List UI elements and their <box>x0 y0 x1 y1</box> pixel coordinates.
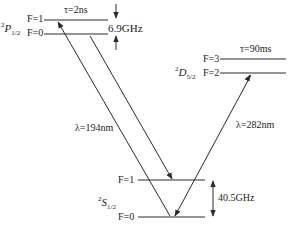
uv-absorption-arrow <box>58 22 170 216</box>
p-lifetime-label: τ=2ns <box>64 5 88 15</box>
d-f3-label: F=3 <box>203 54 219 64</box>
s-f1-label: F=1 <box>118 175 134 185</box>
p-term-label: 2P1/2 <box>1 20 20 39</box>
uv-wavelength-label: λ=194nm <box>75 123 113 133</box>
p-splitting-label: 6.9GHz <box>108 23 143 33</box>
quadrupole-wavelength-label: λ=282nm <box>236 120 274 130</box>
d-f2-label: F=2 <box>203 68 219 78</box>
d-lifetime-label: τ=90ms <box>240 44 271 54</box>
p-to-s0-arrow-end <box>140 120 174 215</box>
d-term-label: 2D5/2 <box>175 64 195 83</box>
s-term-label: 2S1/2 <box>98 194 116 213</box>
p-f0-label: F=0 <box>27 28 43 38</box>
p-to-s1-decay-arrow <box>90 36 172 179</box>
p-f1-label: F=1 <box>27 14 43 24</box>
s-f0-label: F=0 <box>118 212 134 222</box>
s-splitting-label: 40.5GHz <box>218 193 254 203</box>
